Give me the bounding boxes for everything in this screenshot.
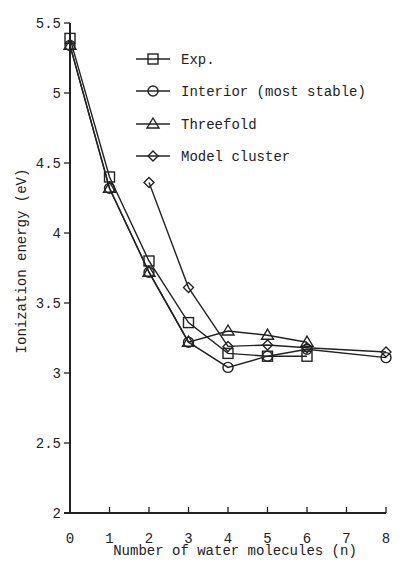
legend: Exp.Interior (most stable)ThreefoldModel… — [136, 52, 366, 165]
legend-item: Interior (most stable) — [136, 84, 366, 100]
series-exp — [65, 33, 312, 361]
y-axis-title: Ionization energy (eV) — [14, 169, 30, 354]
legend-label: Interior (most stable) — [181, 84, 366, 100]
triangle-marker-icon — [147, 118, 159, 128]
legend-label: Model cluster — [181, 149, 290, 165]
x-tick-label: 8 — [382, 531, 390, 547]
y-tick-label: 4.5 — [36, 156, 61, 172]
legend-label: Exp. — [181, 52, 215, 68]
legend-item: Model cluster — [136, 149, 290, 165]
legend-label: Threefold — [181, 117, 257, 133]
y-tick-label: 3.5 — [36, 296, 61, 312]
triangle-marker-icon — [222, 325, 234, 335]
y-tick-label: 5 — [53, 86, 61, 102]
x-axis-title: Number of water molecules (n) — [113, 543, 357, 559]
y-tick-label: 4 — [53, 226, 61, 242]
y-tick-label: 3 — [53, 366, 61, 382]
ionization-energy-chart: 22.533.544.555.5012345678 Exp.Interior (… — [0, 0, 409, 582]
y-tick-label: 2 — [53, 506, 61, 522]
y-tick-label: 5.5 — [36, 16, 61, 32]
legend-item: Exp. — [136, 52, 215, 68]
series-line — [149, 183, 386, 352]
x-tick-label: 0 — [66, 531, 74, 547]
y-tick-label: 2.5 — [36, 436, 61, 452]
legend-item: Threefold — [136, 117, 257, 133]
